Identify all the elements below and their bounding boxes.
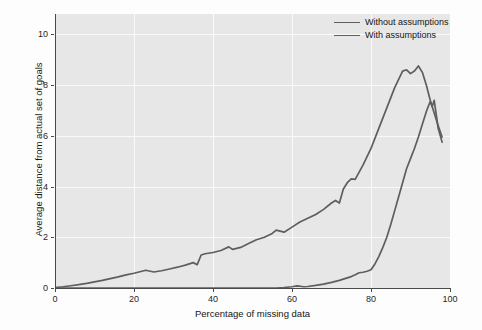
y-tick-mark: [51, 288, 54, 289]
y-tick-mark: [51, 85, 54, 86]
x-tick-mark: [213, 289, 214, 292]
legend-item-with-assumptions: With assumptions: [334, 30, 449, 40]
x-tick-mark: [292, 289, 293, 292]
y-axis-line: [55, 14, 56, 289]
y-tick-label: 0: [30, 283, 48, 293]
x-tick-mark: [55, 289, 56, 292]
legend-line-icon: [334, 35, 360, 36]
x-tick-label: 100: [442, 294, 457, 304]
legend-item-without-assumptions: Without assumptions: [334, 17, 449, 27]
legend-label: Without assumptions: [365, 17, 449, 27]
x-axis-line: [55, 288, 451, 289]
x-tick-label: 60: [287, 294, 297, 304]
legend-line-icon: [334, 22, 360, 23]
series-line-without-assumptions: [55, 66, 442, 287]
y-tick-mark: [51, 136, 54, 137]
legend-label: With assumptions: [365, 30, 436, 40]
x-axis-title: Percentage of missing data: [55, 308, 450, 319]
y-axis-title: Average distance from actual set of goal…: [33, 25, 44, 275]
y-tick-mark: [51, 187, 54, 188]
x-tick-mark: [134, 289, 135, 292]
x-tick-label: 0: [52, 294, 57, 304]
x-tick-mark: [371, 289, 372, 292]
x-tick-label: 20: [129, 294, 139, 304]
x-tick-label: 40: [208, 294, 218, 304]
series-layer: [55, 14, 450, 288]
series-line-with-assumptions: [55, 100, 442, 288]
plot-area: [55, 14, 450, 288]
x-tick-mark: [450, 289, 451, 292]
chart-figure: 020406080100 0246810 Percentage of missi…: [0, 0, 482, 330]
x-tick-label: 80: [366, 294, 376, 304]
y-tick-mark: [51, 237, 54, 238]
chart-legend: Without assumptions With assumptions: [334, 17, 449, 40]
y-tick-mark: [51, 34, 54, 35]
